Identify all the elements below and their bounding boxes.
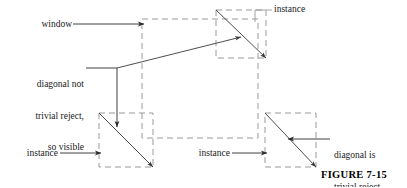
diagonal-bottom-right bbox=[265, 113, 316, 167]
label-instance-bottom-left: instance bbox=[4, 148, 58, 159]
label-instance-bottom-middle: instance bbox=[178, 148, 230, 159]
label-diagonal-visible-line-2: trivial reject, bbox=[6, 111, 84, 122]
leader-diagonal-visible bbox=[86, 68, 117, 127]
label-diagonal-invisible-line-1: diagonal is bbox=[334, 150, 406, 161]
figure-7-15: window instance diagonal not trivial rej… bbox=[0, 0, 407, 187]
label-window: window bbox=[18, 19, 72, 30]
figure-caption: FIGURE 7-15 bbox=[321, 169, 387, 180]
pointer-visible-diagonal bbox=[117, 37, 241, 68]
label-diagonal-visible-line-1: diagonal not bbox=[6, 79, 84, 90]
leader-instance-top-right bbox=[255, 10, 272, 22]
label-diagonal-invisible-line-2: trivial reject, bbox=[334, 182, 406, 188]
label-instance-top-right: instance bbox=[274, 4, 334, 15]
diagonal-bottom-left bbox=[99, 113, 153, 167]
